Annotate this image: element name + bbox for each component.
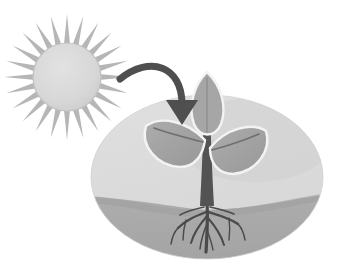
illustration-root: Plant photosynthesis diagram A sun with … xyxy=(0,0,347,277)
sun-core-icon xyxy=(33,43,101,111)
sun-graphic xyxy=(4,14,130,140)
photosynthesis-illustration: Plant photosynthesis diagram A sun with … xyxy=(0,0,347,277)
